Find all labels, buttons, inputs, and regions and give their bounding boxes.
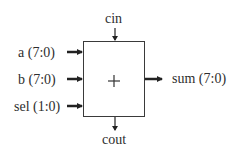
carry-out-label: cout (102, 133, 126, 147)
input-label-sel: sel (1:0) (14, 100, 60, 114)
input-label-b: b (7:0) (18, 73, 56, 87)
input-label-a: a (7:0) (18, 46, 55, 60)
output-label-sum: sum (7:0) (172, 72, 226, 86)
carry-in-label: cin (105, 12, 122, 26)
